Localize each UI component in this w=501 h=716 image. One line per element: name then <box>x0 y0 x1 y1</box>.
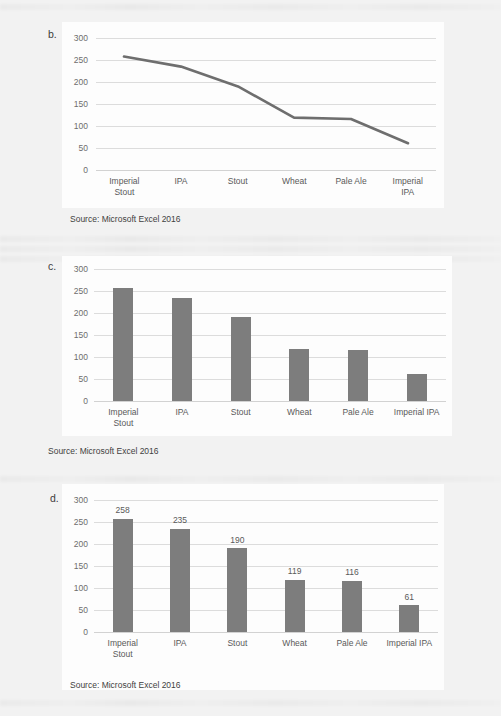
bar-slot: 116 <box>323 500 380 632</box>
x-tick-label: Imperial IPA <box>381 638 438 660</box>
scan-artifact-line <box>0 4 501 10</box>
scan-artifact-line <box>0 236 501 242</box>
x-tick-label: ImperialIPA <box>379 176 436 198</box>
figure-c-bar-series <box>94 269 446 401</box>
bar-slot: 258 <box>94 500 151 632</box>
bar-data-label: 258 <box>116 505 130 515</box>
y-tick-label: 150 <box>74 99 88 109</box>
bar-slot: 61 <box>381 500 438 632</box>
figure-c-x-axis: ImperialStout IPA Stout Wheat Pale Ale I… <box>94 407 446 429</box>
bar <box>231 317 251 401</box>
figure-d-letter: d. <box>50 492 59 504</box>
figure-d-chart-panel: 300 250 200 150 100 50 0 258 <box>62 484 444 690</box>
bar-slot <box>153 269 212 401</box>
y-tick-label: 0 <box>83 627 88 637</box>
bar <box>348 350 368 401</box>
bar-slot <box>94 269 153 401</box>
bar-slot <box>329 269 388 401</box>
x-tick-label: IPA <box>153 176 210 198</box>
gridline-baseline <box>96 170 436 171</box>
x-tick-label: Stout <box>209 176 266 198</box>
x-tick-label: Imperial IPA <box>387 407 446 429</box>
bar-slot: 235 <box>151 500 208 632</box>
y-tick-label: 150 <box>74 330 88 340</box>
figure-c-y-axis: 300 250 200 150 100 50 0 <box>62 256 92 406</box>
figure-c-source: Source: Microsoft Excel 2016 <box>48 446 159 456</box>
x-tick-line: Imperial <box>109 176 139 186</box>
scan-artifact-line <box>0 476 501 482</box>
y-tick-label: 250 <box>74 517 88 527</box>
x-tick-label: Wheat <box>270 407 329 429</box>
bar-data-label: 190 <box>230 535 244 545</box>
x-tick-label: IPA <box>153 407 212 429</box>
bar-slot: 119 <box>266 500 323 632</box>
x-tick-label: ImperialStout <box>96 176 153 198</box>
bar-slot <box>387 269 446 401</box>
figure-d-plot: 258 235 190 119 <box>94 500 438 632</box>
x-tick-line: Imperial <box>108 407 138 417</box>
y-tick-label: 200 <box>74 539 88 549</box>
figure-d-y-axis: 300 250 200 150 100 50 0 <box>62 484 92 639</box>
x-tick-line: Imperial <box>393 176 423 186</box>
bar <box>170 529 190 632</box>
bar <box>172 298 192 401</box>
figure-b-line-series <box>96 38 436 170</box>
x-tick-label: Wheat <box>266 176 323 198</box>
x-tick-label: Pale Ale <box>323 638 380 660</box>
y-tick-label: 100 <box>74 352 88 362</box>
figure-b-letter: b. <box>48 28 57 40</box>
x-tick-line: Stout <box>114 187 134 197</box>
y-tick-label: 150 <box>74 561 88 571</box>
y-tick-label: 200 <box>74 308 88 318</box>
figure-c-chart-area: 300 250 200 150 100 50 0 <box>62 256 452 436</box>
y-tick-label: 250 <box>74 286 88 296</box>
y-tick-label: 100 <box>74 121 88 131</box>
y-tick-label: 100 <box>74 583 88 593</box>
bar-slot <box>211 269 270 401</box>
bar-data-label: 235 <box>173 515 187 525</box>
bar <box>113 519 133 633</box>
scan-artifact-line <box>0 700 501 706</box>
y-tick-label: 50 <box>79 374 88 384</box>
figure-c-plot <box>94 269 446 401</box>
y-tick-label: 250 <box>74 55 88 65</box>
y-tick-label: 50 <box>79 143 88 153</box>
figure-c-chart-panel: 300 250 200 150 100 50 0 <box>62 256 452 436</box>
bar-slot: 190 <box>209 500 266 632</box>
x-tick-label: Stout <box>211 407 270 429</box>
bar <box>289 349 309 401</box>
bar <box>113 288 133 402</box>
x-tick-line: Imperial <box>108 638 138 648</box>
x-tick-label: Stout <box>209 638 266 660</box>
figure-b-y-axis: 300 250 200 150 100 50 0 <box>62 22 92 172</box>
figure-b-source: Source: Microsoft Excel 2016 <box>70 214 181 224</box>
gridline-baseline <box>94 401 446 402</box>
x-tick-label: ImperialStout <box>94 407 153 429</box>
figure-b-x-axis: ImperialStout IPA Stout Wheat Pale Ale I… <box>96 176 436 198</box>
figure-d-chart-area: 300 250 200 150 100 50 0 258 <box>62 484 444 690</box>
scan-artifact-line <box>0 246 501 252</box>
x-tick-label: Pale Ale <box>323 176 380 198</box>
x-tick-label: Wheat <box>266 638 323 660</box>
figure-d-source: Source: Microsoft Excel 2016 <box>70 680 181 690</box>
y-tick-label: 300 <box>74 264 88 274</box>
figure-b-chart-area: 300 250 200 150 100 50 0 <box>62 22 444 208</box>
figure-b-chart-panel: 300 250 200 150 100 50 0 <box>62 22 444 208</box>
bar-data-label: 119 <box>288 566 302 576</box>
bar-data-label: 61 <box>405 592 414 602</box>
figure-b-plot <box>96 38 436 170</box>
bar <box>227 548 247 632</box>
gridline-baseline <box>94 632 438 633</box>
y-tick-label: 300 <box>74 495 88 505</box>
y-tick-label: 300 <box>74 33 88 43</box>
x-tick-label: IPA <box>151 638 208 660</box>
y-tick-label: 0 <box>83 396 88 406</box>
figure-d-bar-series: 258 235 190 119 <box>94 500 438 632</box>
bar-slot <box>270 269 329 401</box>
bar-data-label: 116 <box>345 567 359 577</box>
bar <box>399 605 419 632</box>
y-tick-label: 200 <box>74 77 88 87</box>
x-tick-label: Pale Ale <box>329 407 388 429</box>
y-tick-label: 50 <box>79 605 88 615</box>
bar <box>342 581 362 632</box>
